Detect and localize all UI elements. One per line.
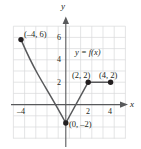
xtick-label-2: 2 <box>86 108 90 116</box>
point-0-neg2 <box>63 120 68 125</box>
point-neg4-6 <box>18 37 23 42</box>
ytick-label-4: 4 <box>57 56 61 64</box>
point-label-4-2: (4, 2) <box>99 71 117 80</box>
xtick-label-4: 4 <box>108 108 112 116</box>
x-axis-label: x <box>130 100 134 109</box>
point-2-2 <box>86 80 91 85</box>
ytick-label-2: 2 <box>57 79 61 87</box>
point-label-neg4-6: (–4, 6) <box>24 30 47 39</box>
function-label: y = f(x) <box>75 48 101 57</box>
y-axis-label: y <box>61 2 65 11</box>
point-label-2-2: (2, 2) <box>72 71 90 80</box>
point-label-0-neg2: (0, –2) <box>69 120 92 129</box>
graph-figure: y x y = f(x) (–4, 6) (2, 2) (4, 2) (0, –… <box>0 0 141 149</box>
point-4-2 <box>108 80 113 85</box>
ytick-label-6: 6 <box>57 34 61 42</box>
xtick-label-neg4: –4 <box>17 108 25 116</box>
